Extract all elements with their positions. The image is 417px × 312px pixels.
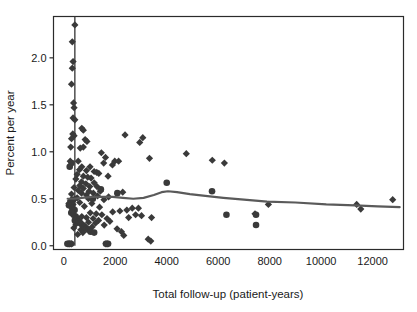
- data-point-diamond: [68, 81, 75, 88]
- data-point-diamond: [115, 158, 122, 165]
- x-tick-label: 12000: [357, 255, 388, 267]
- y-tick-label: 1.0: [31, 146, 46, 158]
- data-point-diamond: [209, 157, 216, 164]
- data-point-diamond: [98, 211, 105, 218]
- data-point-circle: [91, 229, 98, 236]
- data-point-circle: [223, 211, 230, 218]
- x-tick-label: 6000: [206, 255, 230, 267]
- data-point-diamond: [148, 214, 155, 221]
- x-tick-label: 10000: [306, 255, 337, 267]
- data-point-diamond: [135, 205, 142, 212]
- data-point-diamond: [67, 143, 74, 150]
- y-tick-label: 0.0: [31, 240, 46, 252]
- data-point-diamond: [70, 104, 77, 111]
- x-tick-label: 8000: [257, 255, 281, 267]
- y-tick-label: 1.5: [31, 99, 46, 111]
- data-point-diamond: [221, 159, 228, 166]
- data-point-circle: [68, 241, 75, 248]
- y-axis-label: Percent per year: [4, 90, 16, 175]
- data-point-diamond: [98, 149, 105, 156]
- x-tick-label: 0: [61, 255, 67, 267]
- data-point-diamond: [109, 208, 116, 215]
- chart-figure: 020004000600080001000012000 0.00.51.01.5…: [0, 0, 417, 312]
- data-point-diamond: [138, 212, 145, 219]
- data-point-circle: [253, 211, 260, 218]
- data-point-diamond: [96, 204, 103, 211]
- x-axis-label: Total follow-up (patient-years): [153, 288, 304, 300]
- x-tick-label: 2000: [103, 255, 127, 267]
- y-axis-tick-labels: 0.00.51.01.52.0: [31, 52, 53, 252]
- scatter-points-diamond: [65, 21, 397, 247]
- data-point-diamond: [100, 159, 107, 166]
- y-tick-label: 0.5: [31, 193, 46, 205]
- data-point-circle: [163, 179, 170, 186]
- data-point-diamond: [101, 221, 108, 228]
- data-point-diamond: [389, 196, 396, 203]
- data-point-diamond: [125, 214, 132, 221]
- data-point-circle: [209, 188, 216, 195]
- data-point-circle: [253, 222, 260, 229]
- data-point-diamond: [102, 154, 109, 161]
- data-point-diamond: [69, 58, 76, 65]
- data-point-diamond: [183, 150, 190, 157]
- data-point-diamond: [116, 207, 123, 214]
- data-point-circle: [66, 164, 73, 171]
- y-tick-label: 2.0: [31, 52, 46, 64]
- data-point-diamond: [132, 211, 139, 218]
- data-point-diamond: [104, 173, 111, 180]
- data-point-circle: [105, 241, 112, 248]
- data-point-diamond: [71, 21, 78, 28]
- data-point-diamond: [75, 158, 82, 165]
- data-point-diamond: [146, 155, 153, 162]
- data-point-circle: [114, 190, 121, 197]
- data-point-diamond: [121, 131, 128, 138]
- x-tick-label: 4000: [154, 255, 178, 267]
- data-point-circle: [98, 186, 105, 193]
- scatter-plot-svg: 020004000600080001000012000 0.00.51.01.5…: [0, 0, 417, 312]
- x-axis-tick-labels: 020004000600080001000012000: [61, 255, 388, 267]
